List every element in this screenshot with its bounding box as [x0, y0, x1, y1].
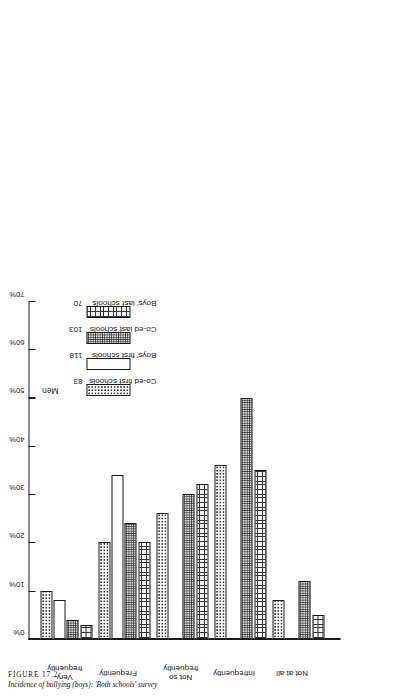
bar — [40, 591, 52, 639]
bar-zero-marker — [227, 639, 239, 640]
figure-page: 0%10%20%30%40%50%60%70% Very frequentlyF… — [0, 0, 395, 696]
bar — [98, 542, 110, 639]
bar — [214, 465, 226, 639]
chart-legend: Men Co-ed first schools83Boys' first sch… — [58, 166, 178, 396]
legend-count: 118 — [69, 351, 82, 360]
axis-tick-label: 70% — [9, 290, 24, 299]
bar — [298, 581, 310, 639]
bar-group — [272, 302, 330, 640]
axis-tick-label: 40% — [9, 435, 24, 444]
bar-group — [214, 302, 272, 640]
bar-chart: 0%10%20%30%40%50%60%70% Very frequentlyF… — [0, 0, 395, 696]
bar — [66, 620, 78, 639]
axis-tick-label: 0% — [13, 628, 24, 637]
figure-number: FIGURE 17.2 — [8, 671, 58, 679]
axis-tick — [28, 397, 35, 398]
figure-caption: FIGURE 17.2 Incidence of bullying (boys)… — [8, 670, 158, 690]
axis-tick-label: 30% — [9, 483, 24, 492]
category-label: Not so frequently — [151, 664, 209, 682]
bar — [111, 475, 123, 639]
bar-zero-marker — [285, 639, 297, 640]
axis-tick — [28, 639, 35, 640]
axis-tick — [28, 494, 35, 495]
bar — [138, 542, 150, 639]
legend-label: Boys' last schools — [92, 299, 156, 308]
axis-tick — [28, 591, 35, 592]
category-label: Not at all — [263, 668, 321, 677]
bar — [80, 625, 92, 639]
axis-tick — [28, 349, 35, 350]
axis-tick — [28, 542, 35, 543]
bar — [254, 470, 266, 639]
legend-label: Co-ed last schools — [89, 325, 156, 334]
axis-tick — [28, 446, 35, 447]
category-label: Infrequently — [205, 668, 263, 677]
legend-title: Men — [42, 386, 58, 396]
legend-count: 83 — [73, 377, 82, 386]
bar — [182, 494, 194, 639]
bar — [240, 398, 252, 639]
axis-tick — [28, 301, 35, 302]
bar — [312, 615, 324, 639]
axis-tick-label: 50% — [9, 386, 24, 395]
bar — [196, 485, 208, 640]
legend-label: Boys' first schools — [91, 351, 156, 360]
bar — [53, 600, 65, 639]
value-axis-line — [28, 302, 29, 640]
axis-tick-label: 10% — [9, 580, 24, 589]
bar — [156, 513, 168, 639]
bar-zero-marker — [169, 639, 181, 640]
bar — [124, 523, 136, 639]
legend-count: 103 — [68, 325, 82, 334]
axis-tick-label: 20% — [9, 531, 24, 540]
legend-count: 70 — [73, 299, 82, 308]
legend-label: Co-ed first schools — [89, 377, 156, 386]
figure-title: Incidence of bullying (boys): 'Both scho… — [8, 680, 157, 689]
axis-tick-label: 60% — [9, 338, 24, 347]
rotated-chart-container: 0%10%20%30%40%50%60%70% Very frequentlyF… — [0, 0, 395, 696]
bar — [272, 600, 284, 639]
